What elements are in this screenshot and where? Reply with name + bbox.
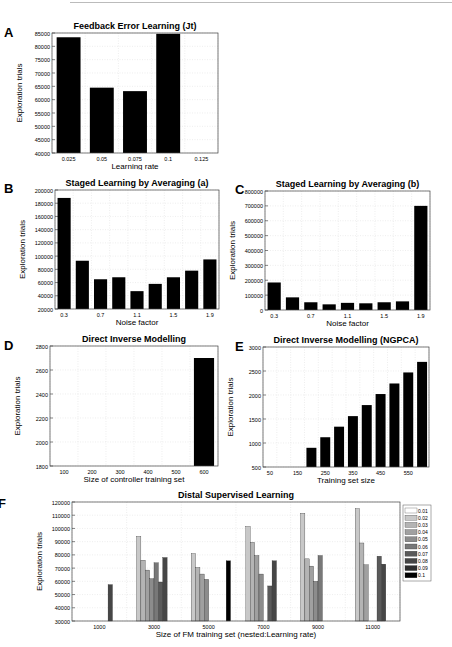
bar [123,91,147,153]
y-tick-label: 45000 [35,137,50,143]
y-tick-label: 0 [260,308,263,314]
bar [314,581,318,621]
y-tick-label: 50000 [35,124,50,130]
chart-title: Feedback Error Learning (Jt) [73,21,196,31]
y-tick-label: 500000 [245,233,263,239]
y-tick-label: 2000 [249,393,261,399]
chart-title: Direct Inverse Modelling (NGPCA) [273,335,418,345]
bar [378,302,391,310]
bar [268,282,281,310]
panel-letter: B [4,181,13,196]
chart-panel-d: DDirect Inverse Modelling180020002200240… [0,330,230,495]
bar [226,561,230,621]
legend-label: 0.05 [418,536,428,542]
y-tick-label: 1000 [249,441,261,447]
bar [58,198,71,309]
bar [377,556,381,621]
y-tick-label: 3000 [249,345,261,351]
bar [341,303,354,310]
bar [272,561,276,621]
bar [196,567,200,621]
x-tick-label: 50 [267,470,273,476]
x-tick-label: 1000 [93,624,105,630]
bar [204,579,208,621]
y-tick-label: 60000 [55,579,70,585]
legend-swatch [405,558,417,563]
bar [414,206,427,310]
y-tick-label: 100000 [245,293,263,299]
legend-label: 0.08 [418,558,428,564]
x-tick-label: 1.9 [417,313,425,319]
bar [396,301,409,310]
x-tick-label: 100 [59,469,68,475]
bar [203,259,216,309]
y-tick-label: 40000 [55,605,70,611]
x-axis-label: Size of controller training set [84,475,186,484]
chart-a: AFeedback Error Learning (Jt)40000450005… [4,21,218,170]
y-tick-label: 60000 [35,97,50,103]
bar [90,88,114,153]
chart-panel-b: BStaged Learning by Averaging (a)2000040… [0,175,228,335]
y-axis-label: Exploration trials [13,376,22,435]
y-tick-label: 100000 [35,254,53,260]
y-tick-label: 120000 [52,500,70,506]
chart-panel-a: AFeedback Error Learning (Jt)40000450005… [0,0,230,170]
bar [154,563,158,621]
y-axis-label: Exploration trials [18,220,27,279]
bar [320,437,330,467]
bars [194,358,214,466]
bar [362,405,372,467]
chart-c: CStaged Learning by Averaging (b)0100000… [228,179,430,328]
y-tick-label: 65000 [35,84,50,90]
x-tick-label: 1.5 [380,313,388,319]
y-tick-label: 180000 [35,201,53,207]
x-axis-label: Learning rate [111,162,159,170]
bar [156,34,180,153]
legend-label: 0.04 [418,529,428,535]
y-tick-label: 30000 [55,619,70,625]
bar [359,303,372,310]
y-tick-label: 2200 [36,416,48,422]
bar [250,542,254,621]
x-axis-label: Training set size [317,476,376,485]
y-tick-label: 1500 [249,417,261,423]
chart-panel-e: EDirect Inverse Modelling (NGPCA)5001000… [225,330,452,495]
y-tick-label: 40000 [38,293,53,299]
y-tick-label: 80000 [38,267,53,273]
y-tick-label: 2600 [36,368,48,374]
y-tick-label: 85000 [35,31,50,37]
panel-letter: D [4,338,13,353]
legend-label: 0.01 [418,508,428,514]
bar [255,556,259,621]
y-tick-label: 90000 [55,539,70,545]
chart-title: Direct Inverse Modelling [82,334,186,344]
x-tick-label: 0.125 [195,156,209,162]
legend-swatch [405,573,417,578]
x-tick-label: 0.3 [60,312,68,318]
legend-label: 0.1 [418,572,425,578]
y-tick-label: 40000 [35,151,50,157]
x-tick-label: 0.05 [96,156,107,162]
y-tick-label: 2500 [249,369,261,375]
legend-swatch [405,508,417,513]
y-tick-label: 160000 [35,214,53,220]
bar [149,284,162,309]
bar [309,566,313,621]
bar [417,362,427,467]
bar [259,574,263,621]
bar [360,543,364,621]
bar [108,585,112,621]
legend-label: 0.02 [418,515,428,521]
x-tick-label: 0.3 [270,313,278,319]
bar [381,564,385,621]
panel-letter: A [4,25,14,40]
legend-swatch [405,551,417,556]
bar [167,277,180,309]
y-tick-label: 200000 [35,188,53,194]
y-tick-label: 60000 [38,280,53,286]
bar [304,302,317,310]
legend-swatch [405,537,417,542]
x-tick-label: 0.025 [62,156,76,162]
y-tick-label: 50000 [55,592,70,598]
y-axis-label: Exploration trials [226,377,235,436]
